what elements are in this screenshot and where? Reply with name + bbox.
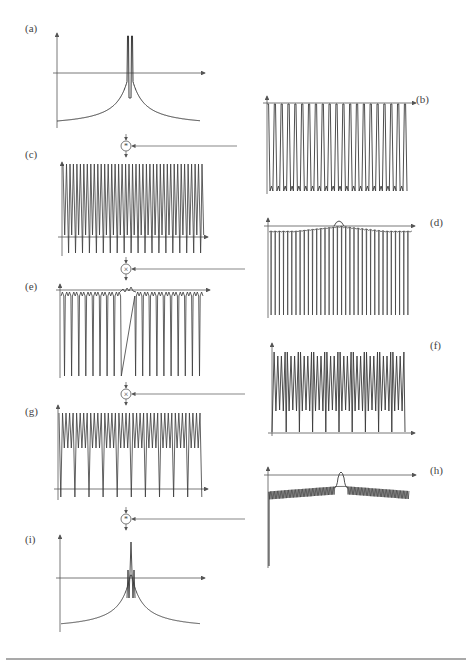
signal-curve <box>59 413 202 497</box>
panel-e-plot <box>56 284 210 378</box>
label-h: (h) <box>430 464 443 476</box>
signal-curve <box>127 542 135 598</box>
panel-h-plot <box>264 467 416 568</box>
label-e: (e) <box>25 280 37 292</box>
signal-curve <box>63 164 204 253</box>
panel-c-plot <box>58 162 208 256</box>
signal-curve <box>267 104 407 191</box>
signal-curve <box>272 352 405 432</box>
panel-b-plot <box>263 96 416 194</box>
diagram-canvas: *××* (a) (b) (c) (d) (e) (f) (g) (h) (i) <box>0 0 471 667</box>
signal-curve <box>61 575 200 624</box>
panel-f-plot <box>268 343 415 436</box>
operator-symbol: * <box>124 515 128 524</box>
signal-curve <box>269 226 412 315</box>
signal-curve <box>61 292 203 376</box>
label-c: (c) <box>25 148 37 160</box>
operator-symbol: × <box>124 390 129 399</box>
panel-d-plot <box>264 218 415 318</box>
panel-g-plot <box>54 405 208 500</box>
panel-a-plot <box>53 33 205 128</box>
label-d: (d) <box>430 216 443 228</box>
operator-symbol: × <box>124 265 129 274</box>
central-bump <box>334 472 348 488</box>
operators-and-connectors: *××* <box>121 134 245 530</box>
label-a: (a) <box>25 22 37 34</box>
label-g: (g) <box>25 405 38 417</box>
label-i: (i) <box>25 533 35 545</box>
central-bump <box>334 221 344 226</box>
diagram-svg: *××* <box>0 0 471 667</box>
operator-symbol: * <box>124 142 128 151</box>
label-f: (f) <box>430 339 441 351</box>
panel-i-plot <box>56 535 205 632</box>
signal-curve <box>269 486 409 499</box>
signal-curve <box>57 36 200 121</box>
signal-curve <box>120 287 136 292</box>
label-b: (b) <box>416 93 429 105</box>
